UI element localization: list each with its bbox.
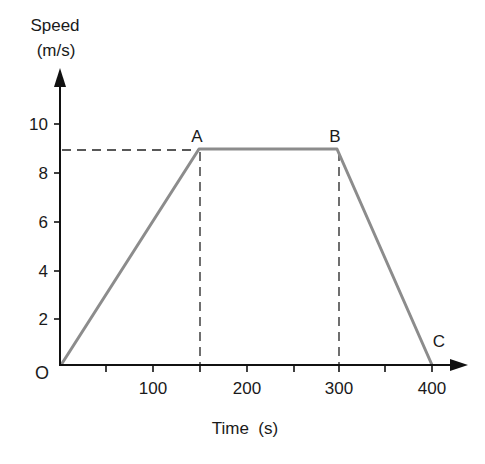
y-axis-arrow-icon bbox=[54, 68, 66, 87]
x-tick-label-300: 300 bbox=[325, 379, 353, 398]
y-tick-label-4: 4 bbox=[39, 262, 48, 281]
y-tick-label-2: 2 bbox=[39, 310, 48, 329]
y-tick-label-8: 8 bbox=[39, 164, 48, 183]
dashed-guides bbox=[62, 150, 339, 365]
point-label-B: B bbox=[329, 127, 340, 146]
y-axis-title-speed: Speed bbox=[30, 16, 79, 35]
point-label-A: A bbox=[191, 127, 203, 146]
x-axis-title: Time (s) bbox=[212, 419, 278, 438]
y-tick-label-10: 10 bbox=[29, 115, 48, 134]
speed-time-graph: Speed (m/s) 10 8 6 4 2 O 100 200 300 400… bbox=[0, 0, 485, 464]
x-axis-arrow-icon bbox=[450, 359, 468, 371]
origin-label: O bbox=[35, 363, 49, 383]
point-label-C: C bbox=[433, 332, 445, 351]
x-tick-label-100: 100 bbox=[139, 379, 167, 398]
speed-line bbox=[61, 149, 432, 365]
axes bbox=[59, 80, 456, 366]
y-tick-label-6: 6 bbox=[39, 213, 48, 232]
x-tick-label-200: 200 bbox=[233, 379, 261, 398]
x-ticks bbox=[106, 365, 432, 372]
x-tick-label-400: 400 bbox=[418, 379, 446, 398]
y-axis-title-unit: (m/s) bbox=[37, 41, 76, 60]
